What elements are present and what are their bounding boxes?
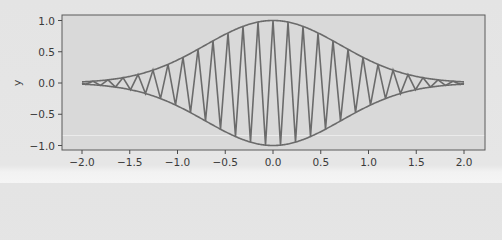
y-tick-label: −0.5	[30, 108, 56, 120]
x-tick-label: 2.0	[456, 156, 473, 168]
x-tick-label: 0.5	[312, 156, 329, 168]
chart: −2.0−1.5−1.0−0.50.00.51.01.52.0 1.00.50.…	[0, 0, 502, 183]
y-tick-label: 0.5	[38, 46, 55, 58]
y-tick-label: 1.0	[38, 15, 55, 27]
x-tick-label: 1.5	[408, 156, 425, 168]
x-tick-label: 1.0	[360, 156, 377, 168]
x-tick-label: −0.5	[213, 156, 239, 168]
x-tick-label: −2.0	[69, 156, 95, 168]
x-tick-label: 0.0	[265, 156, 282, 168]
x-tick-label: −1.5	[117, 156, 143, 168]
x-axis: −2.0−1.5−1.0−0.50.00.51.01.52.0	[69, 150, 472, 168]
y-axis-label: y	[11, 80, 23, 86]
y-tick-label: −1.0	[30, 140, 56, 152]
x-tick-label: −1.0	[165, 156, 191, 168]
y-axis: 1.00.50.0−0.5−1.0	[30, 15, 63, 152]
y-tick-label: 0.0	[38, 77, 55, 89]
